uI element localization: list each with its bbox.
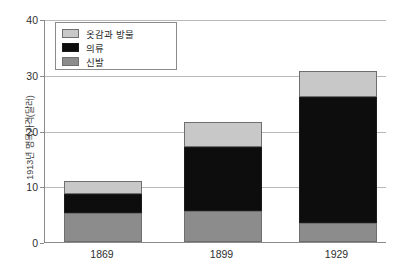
legend-swatch-cloth-icon (62, 29, 79, 38)
stacked-bar-chart: 1913년 명목가격(달러) 010203040 186918991929 옷감… (0, 0, 400, 279)
legend: 옷감과 방물 의류 신발 (55, 22, 177, 70)
y-axis-tick-label: 10 (4, 181, 38, 193)
bar-segment (184, 122, 262, 147)
legend-label: 의류 (86, 41, 104, 55)
bar-1899 (184, 19, 262, 242)
x-axis-tick-label: 1929 (325, 248, 348, 260)
bar-segment (64, 194, 142, 214)
legend-item: 의류 (62, 41, 170, 54)
legend-label: 옷감과 방물 (86, 27, 134, 41)
y-axis-tick-label: 30 (4, 70, 38, 82)
legend-item: 신발 (62, 55, 170, 68)
y-axis-tick-mark (40, 243, 44, 244)
legend-swatch-clothing-icon (62, 43, 79, 52)
y-axis-tick-mark (40, 132, 44, 133)
legend-item: 옷감과 방물 (62, 27, 170, 40)
bar-segment (299, 223, 377, 242)
y-axis-tick-mark (40, 187, 44, 188)
y-axis-tick-label: 40 (4, 14, 38, 26)
bar-1929 (299, 19, 377, 242)
y-axis-tick-mark (40, 20, 44, 21)
x-axis-tick-label: 1899 (210, 248, 233, 260)
legend-label: 신발 (86, 55, 104, 69)
bar-segment (64, 181, 142, 193)
bar-segment (184, 147, 262, 211)
x-axis-tick-label: 1869 (90, 248, 113, 260)
y-axis-tick-label: 20 (4, 126, 38, 138)
bar-segment (184, 211, 262, 242)
y-axis-tick-label: 0 (4, 237, 38, 249)
bar-segment (299, 71, 377, 97)
y-axis-tick-mark (40, 76, 44, 77)
bar-segment (299, 97, 377, 223)
bar-segment (64, 213, 142, 242)
legend-swatch-shoes-icon (62, 57, 79, 66)
